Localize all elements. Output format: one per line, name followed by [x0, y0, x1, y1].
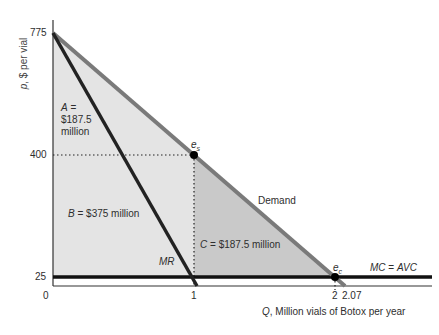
x-tick-2: 2 [332, 290, 338, 302]
x-tick-2-07: 2.07 [342, 290, 361, 302]
area-c-text: = $187.5 million [207, 239, 280, 250]
x-tick-1: 1 [191, 290, 197, 302]
chart-plot [0, 0, 439, 335]
mc-avc-label: MC = AVC [370, 262, 417, 274]
es-sub: s [197, 145, 201, 152]
y-tick-775: 775 [30, 27, 47, 39]
area-a-value: $187.5 [61, 114, 92, 126]
y-axis-label: p, $ per vial [18, 19, 29, 109]
x-tick-0: 0 [43, 290, 49, 302]
mr-label: MR [159, 256, 175, 268]
area-c-label: C = $187.5 million [200, 239, 280, 251]
area-a-var: A [61, 102, 68, 113]
area-a-label: A = [61, 102, 76, 114]
y-axis-var: p [18, 84, 29, 90]
x-axis-label: Q, Million vials of Botox per year [262, 306, 405, 318]
area-b-label: B = $375 million [68, 208, 139, 220]
area-a-eq: = [68, 102, 77, 113]
avc-text: AVC [397, 262, 417, 273]
area-b-var: B [68, 208, 75, 219]
y-axis-text: , $ per vial [18, 38, 29, 84]
y-tick-400: 400 [30, 149, 47, 161]
demand-label: Demand [258, 195, 296, 207]
mc-eq: = [386, 262, 397, 273]
area-a-unit: million [61, 126, 89, 138]
x-axis-var: Q [262, 306, 270, 317]
ec-sub: c [339, 268, 343, 275]
x-axis-text: , Million vials of Botox per year [270, 306, 406, 317]
mc-text: MC [370, 262, 386, 273]
area-b-text: = $375 million [75, 208, 140, 219]
point-es-label: es [191, 139, 200, 155]
y-tick-25: 25 [35, 271, 46, 283]
point-ec-label: ec [333, 262, 342, 278]
monopoly-botox-chart: p, $ per vial 775 400 25 0 1 2 2.07 Q, M… [0, 0, 439, 335]
